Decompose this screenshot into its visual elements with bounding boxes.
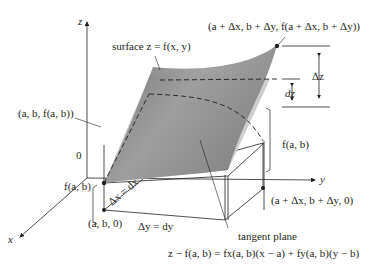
point-left [102, 181, 106, 185]
z-axis-label: z [77, 15, 83, 27]
point-base-right-label: (a + Δx, b + Δy, 0) [271, 194, 353, 207]
delta-z-label: Δz [312, 70, 324, 82]
surface-label: surface z = f(x, y) [112, 40, 191, 53]
delta-y-label: Δy = dy [138, 220, 174, 232]
dz-label: dz [285, 87, 296, 99]
fab-left-label: f(a, b) [64, 180, 91, 193]
point-base-right [261, 186, 265, 190]
point-base-left-label: (a, b, 0) [88, 217, 123, 230]
x-axis-label: x [7, 233, 13, 245]
fab-right-label: f(a, b) [282, 138, 309, 151]
point-left-label: (a, b, f(a, b)) [18, 107, 74, 120]
calculus-diagram: z x y 0 surface z = f(x, y) (a + Δx, b +… [0, 0, 375, 266]
point-base-left [102, 208, 106, 212]
tangent-plane-label: tangent plane [238, 230, 297, 242]
tangent-equation: z − f(a, b) = fx(a, b)(x − a) + fy(a, b)… [168, 247, 359, 260]
origin-label: 0 [76, 149, 82, 161]
point-top-label: (a + Δx, b + Δy, f(a + Δx, b + Δy)) [208, 20, 360, 33]
y-axis-label: y [319, 173, 325, 185]
fab-brace-right [266, 108, 270, 172]
point-top [275, 44, 279, 48]
